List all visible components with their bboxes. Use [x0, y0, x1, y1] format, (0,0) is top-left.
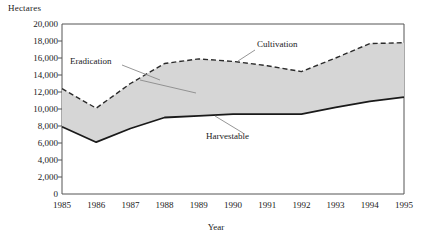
area-chart: Hectares 0 2,000 4,000 6,000 8,000 10,00…: [0, 0, 432, 244]
annotation-cultivation: Cultivation: [257, 39, 298, 49]
x-axis-title: Year: [0, 222, 432, 232]
y-axis-ticks: [58, 41, 62, 177]
annotation-eradication: Eradication: [70, 56, 111, 66]
x-tick-label: 1995: [384, 200, 424, 210]
annotation-harvestable: Harvestable: [206, 131, 249, 141]
cultivation-leader-line: [238, 50, 255, 61]
